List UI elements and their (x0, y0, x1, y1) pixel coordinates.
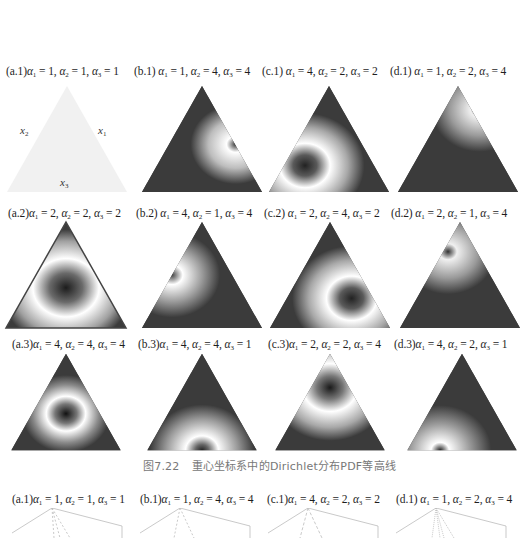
panel-label-d3: (d.3)α1 = 4, α2 = 2, α3 = 1 (394, 338, 507, 352)
sketch-plot-d1 (394, 508, 518, 538)
panel-label-a1: (a.1)α1 = 1, α2 = 1, α3 = 1 (6, 65, 119, 79)
sketch-plot-a1 (10, 508, 134, 538)
next-panel-label-b1: (b.1)α1 = 1, α2 = 4, α3 = 4 (140, 493, 253, 507)
next-panel-label-a1: (a.1)α1 = 1, α2 = 1, α3 = 1 (12, 493, 125, 507)
panel-label-a2: (a.2)α1 = 2, α2 = 2, α3 = 2 (8, 207, 121, 221)
axis-label-x1: x1 (98, 124, 106, 138)
panel-label-a3: (a.3)α1 = 4, α2 = 4, α3 = 4 (12, 338, 125, 352)
ternary-plot-d3 (400, 352, 524, 454)
panel-label-d1: (d.1) α1 = 1, α2 = 2, α3 = 4 (390, 65, 506, 79)
ternary-plot-c1 (267, 84, 391, 196)
figure-caption: 图7.22重心坐标系中的Dirichlet分布PDF等高线 (143, 457, 396, 473)
next-panel-label-c1: (c.1)α1 = 4, α2 = 2, α3 = 2 (267, 493, 380, 507)
ternary-plot-c3 (268, 352, 392, 454)
axis-label-x2: x2 (20, 124, 28, 138)
panel-label-b3: (b.3)α1 = 4, α2 = 4, α3 = 1 (138, 338, 251, 352)
ternary-plot-d2 (398, 220, 522, 332)
ternary-plot-c2 (268, 220, 392, 332)
panel-label-d2: (d.2) α1 = 2, α2 = 1, α3 = 4 (391, 207, 507, 221)
ternary-plot-b1 (140, 84, 264, 196)
ternary-plot-d1 (396, 84, 520, 196)
ternary-plot-a3 (4, 352, 128, 454)
sketch-plot-b1 (138, 508, 262, 538)
ternary-plot-b2 (140, 220, 264, 332)
panel-label-c2: (c.2) α1 = 2, α2 = 4, α3 = 2 (264, 207, 380, 221)
panel-label-b2: (b.2) α1 = 4, α2 = 1, α3 = 4 (136, 207, 252, 221)
ternary-plot-a2 (4, 220, 128, 332)
panel-label-b1: (b.1) α1 = 1, α2 = 4, α3 = 4 (134, 65, 250, 79)
ternary-plot-b3 (140, 352, 264, 454)
sketch-plot-c1 (266, 508, 390, 538)
next-panel-label-d1: (d.1) α1 = 1, α2 = 2, α3 = 4 (396, 493, 512, 507)
axis-label-x3: x3 (60, 176, 68, 190)
panel-label-c3: (c.3)α1 = 2, α2 = 2, α3 = 4 (268, 338, 381, 352)
panel-label-c1: (c.1) α1 = 4, α2 = 2, α3 = 2 (262, 65, 378, 79)
